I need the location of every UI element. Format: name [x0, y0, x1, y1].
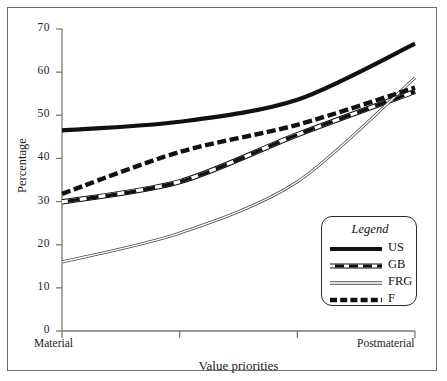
- legend-swatch-gb: [330, 262, 382, 270]
- legend-item-f: F: [330, 292, 412, 308]
- legend-label-gb: GB: [388, 257, 405, 272]
- x-axis-label-material: Material: [34, 337, 73, 349]
- y-tick-label: 0: [24, 323, 50, 335]
- legend-swatch-f: [330, 296, 382, 304]
- y-tick-label: 70: [24, 21, 50, 33]
- legend-label-f: F: [388, 291, 395, 306]
- legend: Legend US GB FRG F: [321, 216, 417, 306]
- y-axis-title: Percentage: [15, 121, 30, 211]
- y-tick-label: 20: [24, 237, 50, 249]
- plot-area: [0, 0, 447, 381]
- series-line-gb-outline: [62, 92, 415, 202]
- legend-item-us: US: [330, 241, 412, 257]
- legend-swatch-frg: [330, 279, 382, 287]
- legend-item-gb: GB: [330, 258, 412, 274]
- chart-figure: 010203040506070 Percentage Value priorit…: [0, 0, 447, 381]
- y-axis-ticks: [56, 29, 62, 331]
- y-tick-label: 10: [24, 280, 50, 292]
- legend-item-frg: FRG: [330, 275, 412, 291]
- legend-title: Legend: [322, 222, 418, 237]
- x-axis-label-postmaterial: Postmaterial: [357, 337, 415, 349]
- series-line-f: [62, 88, 415, 194]
- x-axis-title: Value priorities: [62, 358, 415, 374]
- y-tick-label: 60: [24, 64, 50, 76]
- legend-label-frg: FRG: [388, 274, 412, 289]
- series-line-us: [62, 44, 415, 131]
- legend-label-us: US: [388, 240, 404, 255]
- legend-swatch-us: [330, 245, 382, 253]
- y-tick-label: 50: [24, 107, 50, 119]
